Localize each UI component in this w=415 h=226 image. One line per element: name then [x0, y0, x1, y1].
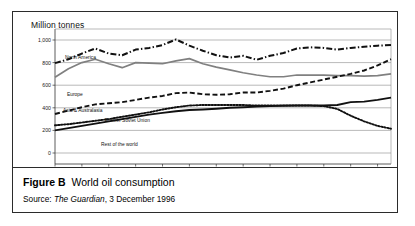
ytick-label: 800	[42, 60, 51, 66]
source-publication: The Guardian	[54, 194, 105, 204]
figure-container: Million tonnes 02004006008001,0001970197…	[12, 11, 398, 213]
figure-title: Figure B World oil consumption	[23, 176, 397, 189]
ytick-label: 600	[42, 82, 51, 88]
ytick-label: 0	[48, 150, 51, 156]
series-line-rest-of-the-world	[55, 98, 391, 131]
series-label-north-america: North America	[65, 55, 96, 60]
ytick-label: 400	[42, 105, 51, 111]
chart-plot-region: Million tonnes 02004006008001,0001970197…	[13, 12, 397, 167]
figure-label: Figure B	[23, 176, 66, 188]
series-line-europe	[55, 59, 391, 78]
series-label-rest-of-the-world: Rest of the world	[101, 142, 138, 147]
source-prefix: Source:	[23, 194, 52, 204]
series-label-former-soviet-union: Former Soviet Union	[105, 118, 150, 123]
line-chart-svg: 02004006008001,0001970197219741976197819…	[13, 12, 397, 167]
series-line-north-america	[55, 39, 391, 63]
figure-title-text: World oil consumption	[71, 176, 174, 188]
series-label-europe: Europe	[67, 92, 83, 97]
figure-source: Source: The Guardian, 3 December 1996	[23, 194, 397, 205]
source-date: , 3 December 1996	[105, 194, 176, 204]
ytick-label: 200	[42, 127, 51, 133]
series-line-asia-australasia	[55, 59, 391, 114]
ytick-label: 1,000	[38, 37, 51, 43]
caption-block: Figure B World oil consumption Source: T…	[13, 168, 397, 213]
series-label-asia-australasia: Asia & Australasia	[63, 108, 103, 113]
